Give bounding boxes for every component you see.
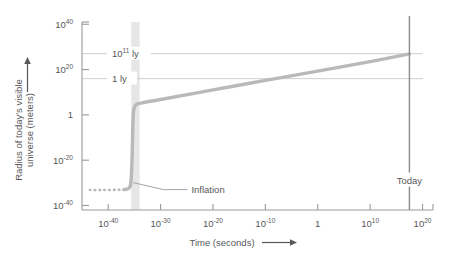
x-axis-title: Time (seconds) bbox=[189, 237, 254, 248]
universe-expansion-chart: 10-4010-3010-2010-10110101020 1040102011… bbox=[0, 0, 453, 259]
inflation-label: Inflation bbox=[191, 184, 224, 195]
y-axis-title-line1: Radius of today's visible bbox=[13, 79, 24, 181]
chart-canvas: 10-4010-3010-2010-10110101020 1040102011… bbox=[0, 0, 453, 259]
y-tick-label-2: 1 bbox=[68, 109, 73, 120]
reference-label-1: 1 ly bbox=[112, 73, 127, 84]
chart-background bbox=[0, 0, 453, 259]
y-axis-title-line2: universe (meters) bbox=[24, 93, 35, 167]
today-label: Today bbox=[397, 175, 423, 186]
x-tick-label-4: 1 bbox=[315, 218, 320, 229]
